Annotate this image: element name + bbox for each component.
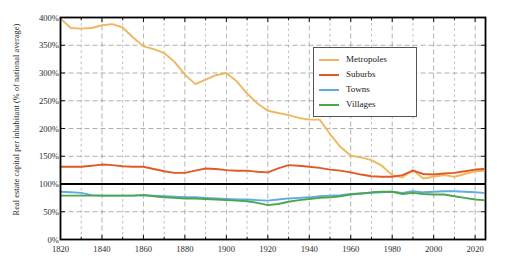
chart-legend: MetropolesSuburbsTownsVillages bbox=[313, 47, 417, 117]
legend-item-suburbs[interactable]: Suburbs bbox=[319, 67, 411, 82]
legend-item-label: Villages bbox=[346, 100, 375, 109]
legend-item-label: Towns bbox=[346, 85, 370, 94]
x-axis-tick-label: 1960 bbox=[331, 244, 371, 254]
x-axis-tick-label: 1880 bbox=[165, 244, 205, 254]
x-axis-tick-label: 2000 bbox=[414, 244, 454, 254]
x-axis-tick-label: 1920 bbox=[248, 244, 288, 254]
x-axis-tick-label: 1860 bbox=[123, 244, 163, 254]
legend-color-swatch bbox=[319, 104, 339, 106]
x-axis-tick-label: 1940 bbox=[289, 244, 329, 254]
x-axis-tick-label: 1840 bbox=[82, 244, 122, 254]
x-axis-tick-labels: 1820184018601880190019201940196019802000… bbox=[0, 0, 513, 267]
x-axis-tick-label: 1820 bbox=[41, 244, 81, 254]
legend-color-swatch bbox=[319, 59, 339, 61]
chart-container: Real estate capital per inhabitant (% of… bbox=[0, 0, 513, 267]
x-axis-tick-label: 1980 bbox=[372, 244, 412, 254]
legend-item-label: Suburbs bbox=[346, 70, 376, 79]
x-axis-tick-label: 2020 bbox=[455, 244, 495, 254]
legend-item-towns[interactable]: Towns bbox=[319, 82, 411, 97]
legend-item-metropoles[interactable]: Metropoles bbox=[319, 52, 411, 67]
legend-item-villages[interactable]: Villages bbox=[319, 97, 411, 112]
legend-item-label: Metropoles bbox=[346, 55, 387, 64]
legend-color-swatch bbox=[319, 89, 339, 91]
x-axis-tick-label: 1900 bbox=[206, 244, 246, 254]
legend-color-swatch bbox=[319, 74, 339, 76]
